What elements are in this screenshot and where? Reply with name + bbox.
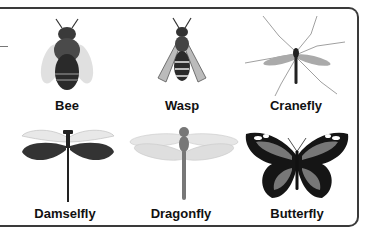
insect-bee: Bee xyxy=(12,16,122,113)
damselfly-icon xyxy=(10,126,126,204)
bee-icon xyxy=(37,16,97,96)
insect-label: Bee xyxy=(12,98,122,113)
wasp-icon xyxy=(152,16,212,96)
dragonfly-icon xyxy=(126,126,242,204)
insect-dragonfly: Dragonfly xyxy=(126,126,236,221)
insect-cranefly: Cranefly xyxy=(241,16,351,113)
cranefly-icon xyxy=(241,16,351,96)
insect-label: Butterfly xyxy=(242,206,352,221)
insect-damselfly: Damselfly xyxy=(10,126,120,221)
insect-butterfly: Butterfly xyxy=(242,126,352,221)
insect-label: Cranefly xyxy=(241,98,351,113)
insect-label: Dragonfly xyxy=(126,206,236,221)
insect-wasp: Wasp xyxy=(127,16,237,113)
butterfly-icon xyxy=(242,126,352,204)
insect-label: Wasp xyxy=(127,98,237,113)
insect-label: Damselfly xyxy=(10,206,120,221)
pointer-line xyxy=(0,46,8,47)
